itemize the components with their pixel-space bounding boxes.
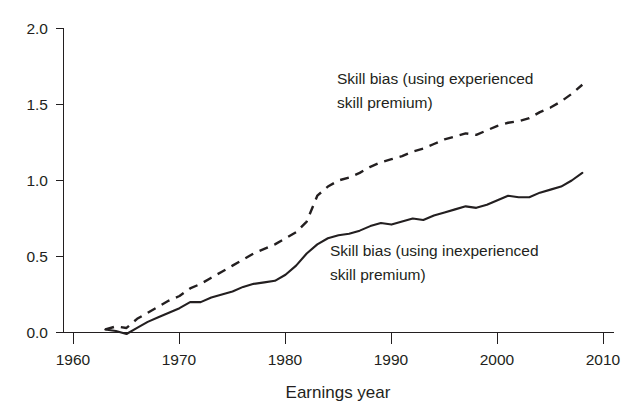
y-tick-label-1-0: 1.0 [26, 172, 48, 189]
x-tick-label-1990: 1990 [374, 351, 409, 368]
x-tick-label-2000: 2000 [480, 351, 515, 368]
annotation-experienced-line1: Skill bias (using experienced [337, 70, 533, 87]
x-tick-label-1970: 1970 [162, 351, 197, 368]
chart-background [0, 0, 636, 420]
annotation-experienced-line2: skill premium) [337, 94, 433, 111]
annotation-inexperienced-line2: skill premium) [330, 266, 426, 283]
x-axis-title: Earnings year [286, 383, 391, 402]
annotation-inexperienced-line1: Skill bias (using inexperienced [330, 242, 539, 259]
y-tick-label-0-5: 0.5 [26, 248, 48, 265]
y-tick-label-2-0: 2.0 [26, 20, 48, 37]
x-tick-label-1980: 1980 [268, 351, 303, 368]
chart-svg: 2.0 1.5 1.0 0.5 0.0 1960 1970 1980 1990 … [0, 0, 636, 420]
skill-bias-line-chart: 2.0 1.5 1.0 0.5 0.0 1960 1970 1980 1990 … [0, 0, 636, 420]
x-tick-label-1960: 1960 [56, 351, 91, 368]
y-tick-label-1-5: 1.5 [26, 96, 48, 113]
x-tick-label-2010: 2010 [586, 351, 621, 368]
y-tick-label-0-0: 0.0 [26, 324, 48, 341]
